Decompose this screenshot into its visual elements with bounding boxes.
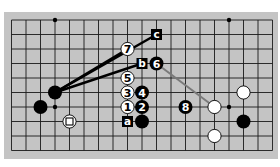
letter-marker-text: a <box>124 115 131 127</box>
black-stone-shape <box>237 115 251 129</box>
white-stone-shape <box>63 115 76 128</box>
black-stone-2: 2 <box>135 100 149 114</box>
black-stone <box>48 86 62 100</box>
star-point <box>227 105 231 109</box>
letter-marker-c: c <box>151 28 162 40</box>
black-stone <box>237 115 251 129</box>
white-stone <box>208 100 221 113</box>
black-stone-shape <box>48 86 62 100</box>
white-stone <box>63 115 76 128</box>
black-stone <box>135 115 149 129</box>
black-stone-6: 6 <box>150 57 164 71</box>
white-stone-3: 3 <box>121 86 134 100</box>
white-stone-shape <box>237 86 250 99</box>
go-board-diagram: 76534128 cba <box>0 0 280 167</box>
move-number: 6 <box>153 58 161 71</box>
move-number: 2 <box>138 101 146 114</box>
black-stone-8: 8 <box>179 100 193 114</box>
star-point <box>53 105 57 109</box>
black-stone-shape <box>135 115 149 129</box>
move-number: 7 <box>124 43 132 56</box>
white-stone-1: 1 <box>121 100 134 114</box>
black-stone <box>34 100 48 114</box>
white-stone-shape <box>208 129 221 142</box>
move-number: 8 <box>182 101 190 114</box>
letter-marker-text: b <box>138 57 146 69</box>
move-number: 4 <box>138 87 146 100</box>
letter-marker-b: b <box>137 57 148 69</box>
white-stone-7: 7 <box>121 42 134 56</box>
letter-marker-text: c <box>153 28 159 40</box>
move-number: 1 <box>124 101 132 114</box>
white-stone-shape <box>208 100 221 113</box>
star-point <box>227 18 231 22</box>
move-number: 5 <box>124 72 132 85</box>
star-point <box>53 18 57 22</box>
black-stone-shape <box>34 100 48 114</box>
white-stone <box>237 86 250 99</box>
white-stone-5: 5 <box>121 71 134 85</box>
move-number: 3 <box>124 87 132 100</box>
white-stone <box>208 129 221 142</box>
letter-marker-a: a <box>122 115 133 127</box>
black-stone-4: 4 <box>135 86 149 100</box>
